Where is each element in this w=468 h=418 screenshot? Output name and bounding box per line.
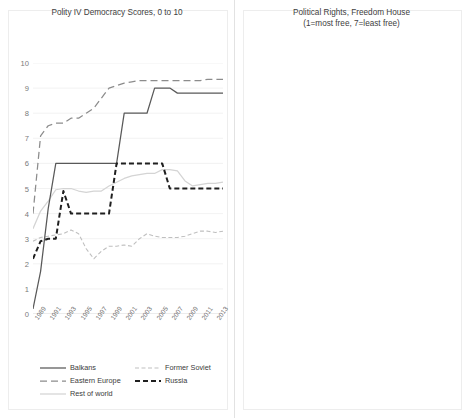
y-tick-label: 3 (11, 234, 29, 243)
y-tick-label: 4 (11, 209, 29, 218)
legend-label: Russia (165, 377, 187, 385)
legend-swatch-rest_of_world (40, 390, 66, 398)
chart-title-line1: Political Rights, Freedom House (235, 7, 468, 18)
plot-area-polity (33, 63, 223, 314)
legend-item-rest_of_world[interactable]: Rest of world (40, 390, 113, 398)
y-tick-label: 2 (11, 259, 29, 268)
legend-item-russia[interactable]: Russia (135, 377, 187, 385)
y-axis-labels-polity: 012345678910 (11, 63, 31, 314)
y-tick-label: 9 (11, 84, 29, 93)
chart-title-line2: (1=most free, 7=least free) (235, 18, 468, 29)
legend-label: Eastern Europe (70, 377, 121, 385)
chart-title-freedom-house: Political Rights, Freedom House (1=most … (235, 7, 468, 29)
y-tick-label: 10 (11, 59, 29, 68)
legend-swatch-balkans (40, 364, 66, 372)
legend-label: Rest of world (70, 390, 113, 398)
legend-label: Balkans (70, 364, 96, 372)
series-line-former_soviet (33, 230, 223, 259)
figure-container: Polity IV Democracy Scores, 0 to 10 0123… (0, 0, 468, 418)
y-tick-label: 5 (11, 184, 29, 193)
y-tick-label: 7 (11, 134, 29, 143)
panel-polity: Polity IV Democracy Scores, 0 to 10 0123… (0, 0, 234, 418)
y-tick-label: 1 (11, 284, 29, 293)
y-tick-label: 6 (11, 159, 29, 168)
legend-label: Former Soviet (165, 364, 211, 372)
legend-item-former_soviet[interactable]: Former Soviet (135, 364, 211, 372)
panel-freedom-house-frame (243, 10, 462, 410)
legend-swatch-eastern_europe (40, 377, 66, 385)
chart-title-polity: Polity IV Democracy Scores, 0 to 10 (0, 7, 234, 18)
legend-item-eastern_europe[interactable]: Eastern Europe (40, 377, 121, 385)
panel-freedom-house: Political Rights, Freedom House (1=most … (234, 0, 468, 418)
legend-item-balkans[interactable]: Balkans (40, 364, 96, 372)
legend-swatch-russia (135, 377, 161, 385)
legend-swatch-former_soviet (135, 364, 161, 372)
series-line-eastern_europe (33, 79, 223, 213)
y-tick-label: 8 (11, 109, 29, 118)
y-tick-label: 0 (11, 310, 29, 319)
